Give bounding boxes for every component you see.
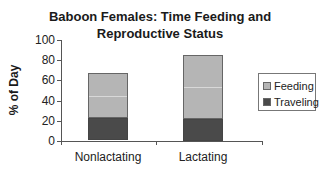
y-axis	[61, 40, 62, 141]
x-tick-label: Lactating	[153, 150, 253, 164]
legend-label-traveling: Traveling	[274, 96, 319, 108]
y-tick	[57, 101, 61, 102]
y-tick-label: 80	[28, 54, 55, 66]
traveling-swatch-icon	[263, 98, 271, 106]
x-tick	[262, 141, 263, 145]
y-tick-label: 60	[28, 74, 55, 86]
x-tick	[61, 141, 62, 145]
y-tick	[57, 60, 61, 61]
feeding-swatch-icon	[263, 82, 271, 90]
y-tick	[57, 121, 61, 122]
y-tick-label: 20	[28, 115, 55, 127]
chart-title: Baboon Females: Time Feeding and Reprodu…	[40, 8, 280, 42]
segment-feeding	[88, 73, 128, 118]
y-tick-label: 40	[28, 95, 55, 107]
bar-lactating	[183, 55, 223, 141]
x-tick-label: Nonlactating	[58, 150, 158, 164]
legend-item-feeding: Feeding	[263, 80, 314, 92]
y-tick-label: 0	[28, 135, 55, 147]
chart-title-line-2: Reproductive Status	[40, 25, 280, 42]
x-tick	[156, 141, 157, 145]
bar-nonlactating	[88, 73, 128, 141]
segment-traveling	[88, 118, 128, 140]
x-axis	[61, 141, 263, 142]
y-tick-label: 100	[28, 34, 55, 46]
y-axis-label: % of Day	[7, 65, 21, 116]
legend-label-feeding: Feeding	[274, 80, 314, 92]
y-tick	[57, 40, 61, 41]
legend-item-traveling: Traveling	[263, 96, 319, 108]
y-tick	[57, 80, 61, 81]
segment-traveling	[183, 119, 223, 141]
segment-feeding	[183, 55, 223, 119]
chart-title-line-1: Baboon Females: Time Feeding and	[40, 8, 280, 25]
legend: Feeding Traveling	[258, 73, 316, 111]
